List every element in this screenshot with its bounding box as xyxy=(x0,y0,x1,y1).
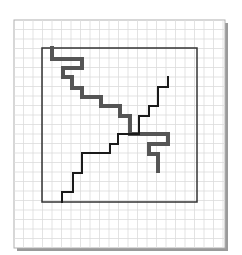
diagram-canvas xyxy=(0,0,242,255)
